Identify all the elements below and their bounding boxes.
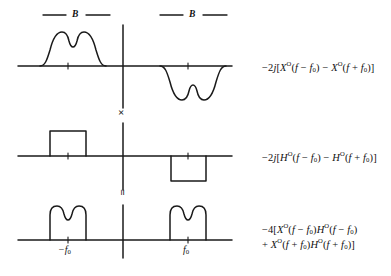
equals-operator: =	[117, 189, 128, 195]
bandwidth-label-right: B	[189, 9, 195, 19]
formula-product: −4[XO(f − f0)HO(f − f0)+ XO(f + f0)HO(f …	[262, 222, 357, 250]
signal-lobe-positive-f0	[160, 66, 226, 100]
axis-label-pos-f0: f0	[183, 244, 189, 255]
formula-line: −2j[XO(f − f0) − XO(f + f0)]	[262, 60, 374, 73]
signal-lobe-negative-f0	[40, 32, 106, 66]
product-lobe-negative-f0	[50, 206, 86, 240]
formula-signal: −2j[XO(f − f0) − XO(f + f0)]	[262, 60, 374, 73]
formula-filter: −2j[HO(f − f0) − HO(f + f0)]	[262, 150, 377, 163]
multiply-operator: ×	[118, 107, 124, 118]
formula-line: −2j[HO(f − f0) − HO(f + f0)]	[262, 150, 377, 163]
axis-label-pos-f0-sub: 0	[186, 248, 189, 255]
bandwidth-label-left: B	[72, 9, 78, 19]
row-signal-axes	[18, 25, 232, 108]
axis-label-neg-f0-text: −f	[58, 244, 68, 255]
formula-line: −4[XO(f − f0)HO(f − f0)	[262, 222, 357, 235]
product-lobe-positive-f0	[170, 206, 206, 240]
filter-pulse-positive-f0	[171, 156, 206, 181]
axis-label-neg-f0: −f0	[58, 244, 71, 255]
figure-canvas: B B × = −f0 f0 −2j[XO(f − f0) − XO(f + f…	[0, 0, 391, 276]
filter-pulse-negative-f0	[50, 131, 86, 156]
formula-line: + XO(f + f0)HO(f + f0)]	[262, 237, 357, 250]
axis-label-neg-f0-sub: 0	[68, 248, 71, 255]
